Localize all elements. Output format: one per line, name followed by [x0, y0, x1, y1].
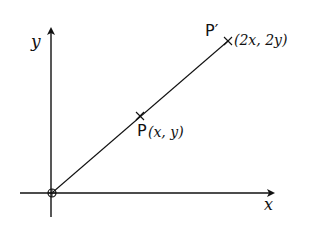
- point-p-prime-coords: (2x, 2y): [234, 33, 287, 47]
- point-p-marker: [136, 112, 144, 120]
- point-p-prime-marker: [224, 37, 232, 45]
- point-p-coords: (x, y): [148, 125, 184, 139]
- y-axis-label: y: [31, 33, 41, 50]
- x-axis-label: x: [264, 197, 273, 213]
- point-p-label: P: [137, 123, 147, 139]
- point-p-prime-label: P′: [205, 23, 218, 39]
